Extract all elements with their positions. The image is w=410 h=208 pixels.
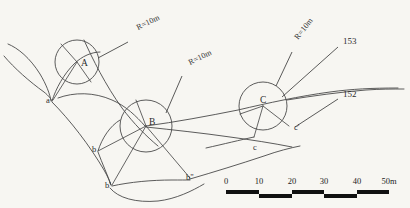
point-label-b: b (92, 144, 96, 154)
radius-label-2: R=10m (187, 48, 214, 67)
curve-B-to-C-main (146, 88, 398, 126)
curve-A-to-B (58, 94, 145, 126)
curve-bottom-boundary (110, 184, 204, 201)
scale-tick-0: 0 (224, 176, 228, 186)
radius-label-1: R=10m (135, 13, 162, 32)
station-leader-152 (295, 99, 338, 127)
point-label-b-prime: b' (105, 180, 111, 190)
radius-circles (55, 40, 287, 152)
curve-bpp-east (190, 146, 300, 179)
center-label-B: B (149, 117, 155, 127)
chord-B-to-bpp (146, 126, 190, 178)
scale-tick-50: 50m (381, 176, 397, 186)
station-label-153: 153 (343, 36, 357, 46)
scale-segment-40-50 (357, 190, 389, 194)
point-label-a: a (46, 95, 50, 105)
point-label-c: c (253, 142, 257, 152)
scale-bar: 0 10 20 30 40 50m (224, 176, 397, 198)
radius-label-3: R=10m (292, 16, 315, 41)
alignment-curves (4, 40, 404, 201)
curve-left-outer (4, 56, 52, 101)
scale-tick-20: 20 (288, 176, 297, 186)
scale-segment-10-20 (259, 194, 292, 198)
scale-tick-40: 40 (353, 176, 362, 186)
curve-A-right-branch (84, 40, 158, 146)
radius-leader-1 (98, 42, 128, 58)
scale-tick-30: 30 (320, 176, 329, 186)
curve-into-C-lowleft (206, 137, 254, 148)
chord-C-to-c (254, 106, 263, 137)
center-label-A: A (81, 58, 88, 68)
center-label-C: C (260, 95, 266, 105)
scale-segment-0-10 (226, 190, 259, 194)
curve-B-west-tail (98, 120, 120, 151)
diagram-canvas: R=10m R=10m R=10m 153 152 A B C a b b' b… (0, 0, 410, 208)
chord-A-up-left (61, 44, 77, 62)
scale-segment-20-30 (292, 190, 324, 194)
radius-leader-3 (276, 52, 292, 86)
curve-center-labels: A B C (81, 58, 266, 127)
radial-chords (53, 44, 289, 185)
radius-leader-2 (166, 76, 182, 113)
curve-a-to-bprime (52, 102, 111, 185)
station-annotations: 153 152 (282, 36, 357, 127)
curve-bprime-to-bpp (112, 180, 190, 186)
point-label-c-prime: c' (294, 122, 300, 132)
station-label-152: 152 (343, 89, 357, 99)
alignment-diagram-svg: R=10m R=10m R=10m 153 152 A B C a b b' b… (0, 0, 410, 208)
point-label-b-double-prime: b" (186, 172, 194, 182)
curve-B-to-C-lower (146, 127, 292, 147)
radius-annotations: R=10m R=10m R=10m (98, 13, 315, 113)
scale-segment-30-40 (324, 194, 357, 198)
scale-tick-10: 10 (255, 176, 264, 186)
